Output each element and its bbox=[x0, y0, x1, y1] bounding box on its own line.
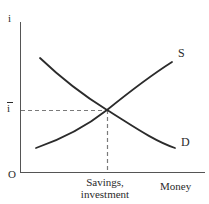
loanable-funds-diagram: i i O S D Savings, investment Money bbox=[0, 0, 209, 204]
x-axis-category-line2: investment bbox=[66, 189, 144, 201]
x-axis-label: Money bbox=[160, 181, 191, 193]
supply-curve-label: S bbox=[178, 47, 185, 60]
supply-curve bbox=[36, 62, 172, 148]
x-axis-category-line1: Savings, bbox=[66, 177, 144, 189]
equilibrium-rate-label: i bbox=[7, 102, 10, 115]
y-axis-label: i bbox=[8, 13, 11, 25]
diagram-canvas bbox=[0, 0, 209, 204]
origin-label: O bbox=[8, 169, 16, 181]
equilibrium-rate-value: i bbox=[7, 102, 10, 115]
x-axis-category-label: Savings, investment bbox=[66, 177, 144, 200]
demand-curve-label: D bbox=[181, 136, 190, 149]
